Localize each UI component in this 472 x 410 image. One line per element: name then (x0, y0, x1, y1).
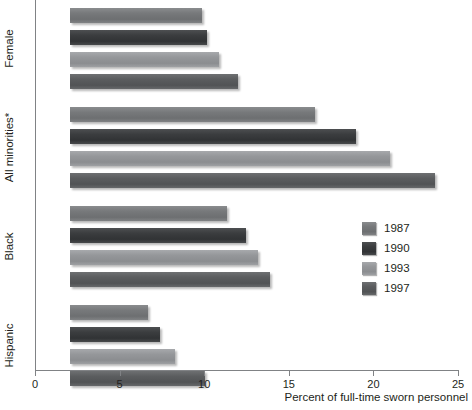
legend-label-1990: 1990 (384, 242, 410, 255)
legend-swatch-1997 (362, 282, 376, 295)
x-axis-line (35, 370, 459, 371)
category-label-black: Black (3, 206, 15, 287)
x-axis-tick-label: 0 (32, 378, 38, 390)
x-axis-tick-label: 25 (452, 378, 464, 390)
bar-female-1990 (70, 30, 207, 45)
category-label-all-minorities: All minorities* (3, 107, 15, 188)
bar-all-minorities-1997 (70, 173, 435, 188)
x-axis-tick (289, 370, 290, 376)
bar-black-1997 (70, 272, 270, 287)
legend-swatch-1990 (362, 242, 376, 255)
bar-hispanic-1993 (70, 349, 175, 364)
bar-all-minorities-1993 (70, 151, 390, 166)
x-axis-tick-label: 5 (117, 378, 123, 390)
x-axis-tick-label: 10 (198, 378, 210, 390)
bar-black-1993 (70, 250, 258, 265)
legend-label-1997: 1997 (384, 282, 410, 295)
y-axis-line (35, 0, 36, 371)
bar-all-minorities-1987 (70, 107, 315, 122)
x-axis-tick-label: 15 (283, 378, 295, 390)
bar-hispanic-1990 (70, 327, 160, 342)
bar-all-minorities-1990 (70, 129, 356, 144)
x-axis-tick-label: 20 (367, 378, 379, 390)
legend-label-1993: 1993 (384, 262, 410, 275)
legend-item-1987: 1987 (362, 222, 410, 235)
legend-swatch-1987 (362, 222, 376, 235)
legend-item-1997: 1997 (362, 282, 410, 295)
bar-chart: FemaleAll minorities*BlackHispanic 05101… (0, 0, 472, 410)
bar-female-1987 (70, 8, 202, 23)
bar-hispanic-1997 (70, 371, 205, 386)
x-axis-tick (458, 370, 459, 376)
x-axis-tick (204, 370, 205, 376)
bar-black-1990 (70, 228, 246, 243)
x-axis-tick (120, 370, 121, 376)
bar-female-1993 (70, 52, 219, 67)
legend-item-1993: 1993 (362, 262, 410, 275)
legend-item-1990: 1990 (362, 242, 410, 255)
legend-label-1987: 1987 (384, 222, 410, 235)
legend: 1987199019931997 (362, 222, 410, 295)
bar-hispanic-1987 (70, 305, 148, 320)
bar-black-1987 (70, 206, 227, 221)
category-label-hispanic: Hispanic (3, 305, 15, 386)
bar-female-1997 (70, 74, 238, 89)
x-axis-title: Percent of full-time sworn personnel (285, 391, 468, 403)
x-axis-tick (35, 370, 36, 376)
legend-swatch-1993 (362, 262, 376, 275)
x-axis-tick (373, 370, 374, 376)
plot-area (35, 0, 458, 370)
category-label-female: Female (3, 8, 15, 89)
